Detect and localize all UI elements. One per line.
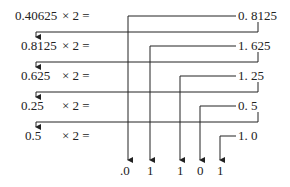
row-3-op: × 2 = — [62, 99, 90, 113]
row-2-operand: 0.625 — [21, 69, 50, 83]
row-2-result: 1. 25 — [238, 69, 264, 83]
row-0-op: × 2 = — [62, 9, 90, 23]
row-4-operand: 0.5 — [25, 129, 41, 143]
bit-0: .0 — [120, 164, 130, 178]
row-4-result: 1. 0 — [238, 129, 258, 143]
row-1-op: × 2 = — [62, 39, 90, 53]
bit-3: 0 — [197, 164, 204, 178]
row-3-operand: 0.25 — [21, 99, 44, 113]
bit-4: 1 — [217, 164, 224, 178]
row-0-operand: 0.40625 — [15, 9, 57, 23]
row-1-operand: 0.8125 — [21, 39, 57, 53]
row-1-result: 1. 625 — [238, 39, 271, 53]
row-2-op: × 2 = — [62, 69, 90, 83]
bit-2: 1 — [177, 164, 184, 178]
row-4-op: × 2 = — [62, 129, 90, 143]
bit-1: 1 — [147, 164, 154, 178]
row-0-result: 0. 8125 — [238, 9, 277, 23]
diagram-lines — [0, 0, 290, 187]
row-3-result: 0. 5 — [238, 99, 258, 113]
